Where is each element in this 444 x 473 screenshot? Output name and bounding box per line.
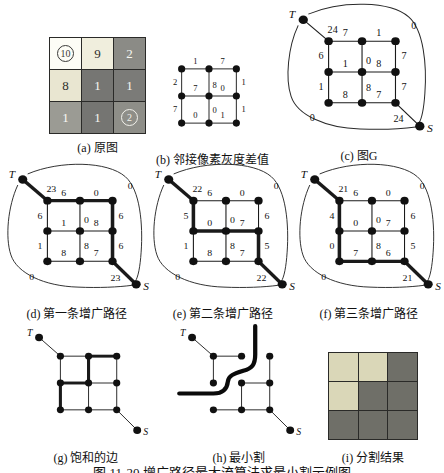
pixel-node-10	[57, 380, 64, 387]
pixel-node-01	[205, 65, 212, 72]
edge-weight-22-S: 24	[393, 114, 403, 125]
edge-weight-01-02: 7	[221, 56, 225, 66]
edge-weight-11-12: 0	[221, 83, 225, 93]
panel-graph-g: TS247160718187872400 (c) 图G	[283, 2, 435, 164]
pixel-node-00	[43, 197, 51, 205]
t-node-label: T	[289, 8, 296, 19]
pixel-node-21	[222, 257, 230, 265]
panel-saturated-edges: TS (g) 饱和的边	[22, 322, 150, 466]
pixel-node-00	[210, 353, 217, 360]
pixel-node-02	[254, 197, 262, 205]
pixel-node-11	[238, 380, 245, 387]
edge-weight-10-20: 7	[173, 104, 177, 114]
panel-augmenting-path-2: TS226050607185872200 (e) 第二条增广路径	[149, 162, 297, 322]
edge-weight-10-11: 0	[207, 218, 212, 228]
edge-weight-20-21: 7	[353, 249, 358, 259]
edge-weight-20-21: 8	[207, 249, 212, 259]
edge-weight-10-20: 1	[38, 241, 43, 251]
pixel-cell: 1	[82, 102, 113, 133]
edge-weight-20-21: 0	[193, 110, 197, 120]
pixel-cell: 10	[50, 38, 81, 69]
edge-weight-21-22: 6	[386, 249, 391, 259]
pixel-cell	[359, 382, 388, 410]
source-node-T	[310, 175, 319, 183]
edge-weight-11-12: 8	[94, 218, 99, 228]
pixel-node-12	[254, 227, 262, 235]
pixel-node-02	[113, 353, 120, 360]
s-node-label: S	[427, 122, 433, 133]
pixel-cell: 2	[114, 102, 145, 133]
edge-22-S	[270, 410, 290, 430]
pixel-cell	[388, 353, 417, 381]
edge-weight-00-01: 6	[353, 188, 358, 198]
edge-weight-01-11: 0	[230, 215, 235, 225]
sink-node-S	[415, 122, 424, 131]
augmenting-path-2-graph: TS226050607185872200	[149, 162, 297, 300]
pixel-node-00	[57, 353, 64, 360]
edge-weight-00-01: 6	[207, 188, 212, 198]
panel-a-caption: (a) 原图	[49, 138, 146, 156]
edge-weight-11-21: 8	[230, 242, 235, 252]
pixel-cell	[329, 353, 358, 381]
edge-weight-02-12: 6	[264, 211, 269, 221]
edge-weight-00-10: 6	[38, 211, 43, 221]
pixel-node-02	[233, 65, 240, 72]
pixel-node-02	[391, 37, 400, 45]
edge-weight-12-22: 1	[241, 104, 245, 114]
pixel-cell: 1	[82, 70, 113, 101]
edge-T-00	[303, 20, 328, 41]
edge-weight-blob-bl: 0	[321, 272, 326, 282]
circled-seed-value: 10	[57, 45, 74, 62]
panel-augmenting-path-1: TS236060618186872300 (d) 第一条增广路径	[3, 162, 151, 322]
pixel-node-11	[368, 227, 376, 235]
edge-weight-00-10: 5	[184, 211, 189, 221]
pixel-node-22	[400, 257, 408, 265]
pixel-node-22	[233, 120, 240, 127]
pixel-node-11	[85, 380, 92, 387]
edge-weight-01-02: 0	[240, 188, 245, 198]
edge-weight-20-21: 8	[343, 89, 348, 100]
source-node-T	[164, 175, 173, 183]
panel-d-caption: (d) 第一条增广路径	[3, 304, 151, 322]
edge-weight-11-21: 8	[366, 82, 371, 93]
pixel-node-20	[57, 406, 64, 413]
pixel-cell: 2	[114, 38, 145, 69]
pixel-node-21	[85, 406, 92, 413]
pixel-node-11	[358, 68, 367, 76]
pixel-node-01	[238, 353, 245, 360]
edge-weight-T-00: 22	[192, 185, 202, 195]
pixel-node-02	[266, 353, 273, 360]
saturated-edges-graph: TS	[22, 322, 150, 444]
segmentation-result-grid	[328, 352, 418, 440]
edge-T-00	[169, 179, 194, 200]
pixel-node-12	[113, 380, 120, 387]
pixel-node-00	[324, 37, 333, 45]
pixel-node-22	[266, 406, 273, 413]
pixel-node-21	[76, 257, 84, 265]
edge-weight-11-12: 8	[376, 58, 381, 69]
pixel-node-20	[210, 406, 217, 413]
edge-weight-10-11: 0	[353, 218, 358, 228]
edge-T-00	[315, 179, 340, 200]
edge-weight-00-01: 1	[193, 56, 197, 66]
edge-T-00	[192, 337, 213, 356]
pixel-node-20	[178, 120, 185, 127]
panel-segmentation-result: (i) 分割结果	[328, 352, 418, 466]
edge-weight-blob-tr: 0	[274, 181, 279, 191]
panel-original-image: 1092811112 (a) 原图	[49, 37, 146, 156]
pixel-node-10	[324, 68, 333, 76]
edge-weight-02-12: 6	[410, 211, 415, 221]
edge-weight-11-21: 0	[212, 105, 216, 115]
edge-T-00	[23, 179, 48, 200]
t-node-label: T	[180, 327, 186, 338]
pixel-node-01	[222, 197, 230, 205]
pixel-node-21	[238, 406, 245, 413]
augmenting-path-3-graph: TS216040607085762100	[295, 162, 443, 300]
edge-weight-blob-tr: 0	[128, 181, 133, 191]
pixel-node-12	[400, 227, 408, 235]
source-node-T	[18, 175, 27, 183]
pixel-node-12	[391, 68, 400, 76]
edge-weight-22-S: 21	[403, 273, 413, 283]
pixel-node-20	[43, 257, 51, 265]
pixel-node-11	[222, 227, 230, 235]
